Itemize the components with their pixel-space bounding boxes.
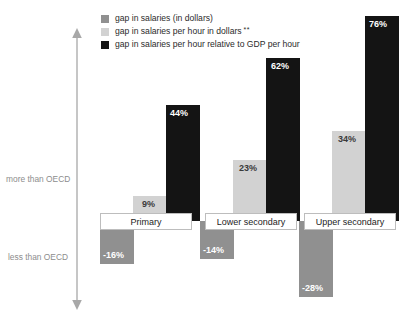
bar-upper-secondary-gap-per-hour-dollars <box>332 131 366 221</box>
bar-value-upper-secondary-gap-per-hour-dollars: 34% <box>338 134 356 144</box>
plot-area: -16% 9% 44% Primary -14% 23% 62% <box>0 0 404 317</box>
category-label-upper-secondary: Upper secondary <box>304 213 396 230</box>
bar-upper-secondary-gap-per-hour-gdp <box>365 16 399 221</box>
bar-group-upper-secondary: -28% 34% 76% Upper secondary <box>0 0 404 317</box>
bar-value-upper-secondary-gap-per-hour-gdp: 76% <box>369 19 387 29</box>
bar-value-upper-secondary-gap-in-salaries: -28% <box>302 283 323 293</box>
category-label-text-upper-secondary: Upper secondary <box>316 217 385 227</box>
bar-chart: gap in salaries (in dollars) gap in sala… <box>0 0 404 317</box>
